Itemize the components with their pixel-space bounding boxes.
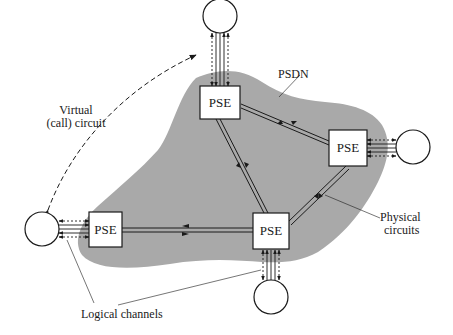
pse-right: PSE xyxy=(329,130,367,166)
logical-channels-leader-right xyxy=(118,270,261,305)
logical-channels-label: Logical channels xyxy=(81,307,163,321)
physical-circuits-label-line2: circuits xyxy=(384,223,420,237)
pse-right-label: PSE xyxy=(337,140,359,155)
pse-left-label: PSE xyxy=(94,222,116,237)
psdn-diagram: PSE PSE PSE PSE PSDN Virtual (call) circ… xyxy=(0,0,453,335)
virtual-circuit-label-line1: Virtual xyxy=(59,103,93,117)
physical-circuits-label-line1: Physical xyxy=(380,210,421,224)
pse-bottom-label: PSE xyxy=(260,223,282,238)
dte-top-circle xyxy=(203,0,237,33)
pse-bottom: PSE xyxy=(253,213,289,249)
pse-top: PSE xyxy=(200,86,240,119)
psdn-label: PSDN xyxy=(278,67,309,81)
pse-top-label: PSE xyxy=(209,95,231,110)
dte-right-circle xyxy=(396,130,430,164)
virtual-circuit-label-line2: (call) circuit xyxy=(47,116,107,130)
dte-bottom-circle xyxy=(254,280,288,314)
dte-left-circle xyxy=(25,212,59,246)
pse-left: PSE xyxy=(89,212,122,247)
